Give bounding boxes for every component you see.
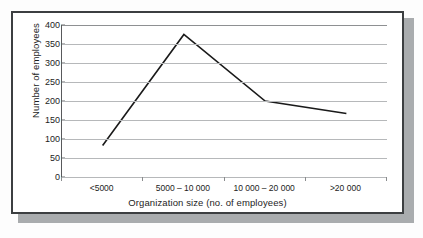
- x-tick-label: <5000: [90, 183, 114, 193]
- x-tick-mark: [61, 177, 62, 181]
- y-tick-label: 100: [45, 134, 60, 144]
- x-tick-mark: [386, 177, 387, 181]
- x-tick-mark: [224, 177, 225, 181]
- series-polyline: [103, 35, 347, 146]
- y-tick-label: 200: [45, 96, 60, 106]
- y-axis-tick-labels: 050100150200250300350400: [33, 25, 60, 177]
- y-tick-label: 150: [45, 115, 60, 125]
- gridline: [62, 25, 387, 26]
- y-tick-label: 0: [55, 172, 60, 182]
- gridline: [62, 101, 387, 102]
- x-tick-label: >20 000: [330, 183, 361, 193]
- gridline: [62, 158, 387, 159]
- x-tick-mark: [305, 177, 306, 181]
- plot-area: [61, 25, 387, 178]
- x-axis-title: Organization size (no. of employees): [13, 197, 402, 208]
- y-tick-label: 350: [45, 39, 60, 49]
- chart-canvas: Number of employees 05010015020025030035…: [13, 13, 402, 212]
- x-axis-tick-marks: [61, 177, 386, 182]
- gridline: [62, 139, 387, 140]
- gridline: [62, 63, 387, 64]
- y-tick-label: 400: [45, 20, 60, 30]
- x-axis-tick-labels: <50005000 – 10 00010 000 – 20 000>20 000: [61, 183, 386, 197]
- figure-frame: Number of employees 05010015020025030035…: [11, 11, 404, 214]
- y-tick-label: 300: [45, 58, 60, 68]
- x-tick-mark: [142, 177, 143, 181]
- y-tick-label: 250: [45, 77, 60, 87]
- gridline: [62, 82, 387, 83]
- gridline: [62, 44, 387, 45]
- x-tick-label: 10 000 – 20 000: [233, 183, 294, 193]
- x-tick-label: 5000 – 10 000: [156, 183, 210, 193]
- gridline: [62, 120, 387, 121]
- scanned-page-background: Number of employees 05010015020025030035…: [0, 0, 423, 238]
- y-tick-label: 50: [50, 153, 60, 163]
